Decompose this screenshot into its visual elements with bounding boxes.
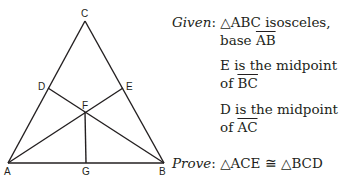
segment-ca bbox=[8, 21, 85, 163]
vertex-label-a: A bbox=[4, 166, 11, 177]
given-triangle: △ABC bbox=[220, 14, 261, 30]
of-text: of bbox=[220, 119, 237, 135]
vertex-label-c: C bbox=[81, 8, 88, 19]
given-colon: : bbox=[211, 14, 216, 30]
segment-ab-notation: AB bbox=[256, 32, 276, 48]
given-line-2: base AB bbox=[220, 32, 276, 48]
segment-ac-notation: AC bbox=[237, 119, 257, 135]
given-stmt-d-line-2: of AC bbox=[220, 119, 258, 135]
midpoint-d-text: D is the midpoint bbox=[220, 101, 338, 117]
segment-bc bbox=[85, 21, 164, 163]
vertex-label-b: B bbox=[159, 166, 166, 177]
midpoint-e-text: E is the midpoint bbox=[220, 57, 337, 73]
vertex-label-e: E bbox=[126, 81, 133, 92]
given-base-label: base bbox=[220, 32, 256, 48]
given-line-1: Given: △ABC isosceles, bbox=[172, 14, 331, 30]
prove-colon: : bbox=[211, 155, 216, 171]
given-isosceles: isosceles, bbox=[261, 14, 331, 30]
figure-lines bbox=[8, 21, 164, 163]
segment-fg bbox=[85, 112, 86, 163]
vertex-label-f: F bbox=[82, 100, 88, 111]
prove-line: Prove: △ACE ≅ △BCD bbox=[172, 155, 323, 171]
prove-label: Prove bbox=[172, 155, 211, 171]
isosceles-triangle-figure: C D E F A G B bbox=[0, 0, 175, 179]
given-stmt-e-line-1: E is the midpoint bbox=[220, 57, 337, 73]
prove-statement: △ACE ≅ △BCD bbox=[220, 155, 323, 171]
given-stmt-d-line-1: D is the midpoint bbox=[220, 101, 338, 117]
given-stmt-e-line-2: of BC bbox=[220, 75, 258, 91]
of-text: of bbox=[220, 75, 237, 91]
segment-bc-notation: BC bbox=[237, 75, 258, 91]
vertex-label-g: G bbox=[82, 166, 90, 177]
given-label: Given bbox=[172, 14, 211, 30]
vertex-label-d: D bbox=[38, 81, 45, 92]
